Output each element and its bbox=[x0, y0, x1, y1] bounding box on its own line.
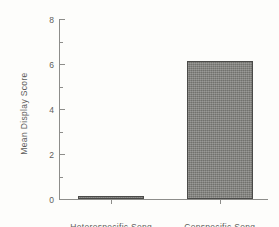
chart-figure: Mean Display Score 02468 Heterospecific … bbox=[0, 0, 279, 227]
bar bbox=[78, 196, 144, 199]
y-tick-mark bbox=[60, 64, 65, 65]
y-tick-label: 6 bbox=[49, 60, 54, 69]
y-tick-label: 2 bbox=[49, 150, 54, 159]
y-minor-tick-mark bbox=[60, 87, 63, 88]
y-tick-mark bbox=[60, 19, 65, 20]
y-axis-label: Mean Display Score bbox=[14, 0, 34, 227]
x-tick-mark bbox=[111, 200, 112, 204]
bar bbox=[187, 61, 253, 199]
y-tick-mark bbox=[60, 109, 65, 110]
y-tick-mark bbox=[60, 199, 65, 200]
y-tick-label: 0 bbox=[49, 195, 54, 204]
y-minor-tick-mark bbox=[60, 132, 63, 133]
y-tick-label: 4 bbox=[49, 105, 54, 114]
y-tick-label: 8 bbox=[49, 15, 54, 24]
x-tick-mark bbox=[220, 200, 221, 204]
y-minor-tick-mark bbox=[60, 177, 63, 178]
y-tick-mark bbox=[60, 154, 65, 155]
x-tick-label: Heterospecific Song bbox=[70, 222, 152, 227]
plot-area: 02468 Heterospecific SongConspecific Son… bbox=[59, 19, 268, 200]
y-minor-tick-mark bbox=[60, 42, 63, 43]
x-tick-label: Conspecific Song bbox=[184, 222, 255, 227]
x-axis-line bbox=[59, 199, 268, 200]
